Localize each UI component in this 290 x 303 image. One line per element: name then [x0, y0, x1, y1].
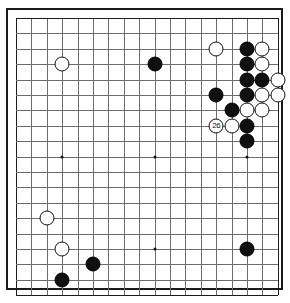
stone-black[interactable]: [55, 272, 70, 287]
stone-white[interactable]: [39, 211, 54, 226]
stone-black[interactable]: [240, 72, 255, 87]
stone-black[interactable]: [147, 57, 162, 72]
stone-black[interactable]: [224, 103, 239, 118]
grid-line-horizontal: [16, 295, 278, 296]
board-stones: 26: [8, 10, 281, 288]
stone-white[interactable]: [255, 103, 270, 118]
stone-white[interactable]: [209, 41, 224, 56]
stone-white[interactable]: [224, 118, 239, 133]
stone-white[interactable]: [55, 57, 70, 72]
stone-white[interactable]: [55, 242, 70, 257]
stone-black[interactable]: [240, 118, 255, 133]
stone-white[interactable]: [255, 88, 270, 103]
stone-black[interactable]: [240, 88, 255, 103]
stone-white[interactable]: [255, 57, 270, 72]
stone-white[interactable]: [270, 72, 285, 87]
stone-white[interactable]: [240, 103, 255, 118]
go-diagram-page: 26: [0, 0, 290, 303]
stone-white[interactable]: [255, 41, 270, 56]
stone-black[interactable]: [209, 88, 224, 103]
stone-white[interactable]: [270, 88, 285, 103]
stone-move-number: 26: [210, 119, 223, 132]
stone-black[interactable]: [240, 134, 255, 149]
stone-white-labeled[interactable]: 26: [209, 118, 224, 133]
stone-black[interactable]: [255, 72, 270, 87]
go-board[interactable]: 26: [6, 8, 283, 290]
stone-black[interactable]: [240, 242, 255, 257]
stone-black[interactable]: [240, 41, 255, 56]
stone-black[interactable]: [86, 257, 101, 272]
stone-black[interactable]: [240, 57, 255, 72]
